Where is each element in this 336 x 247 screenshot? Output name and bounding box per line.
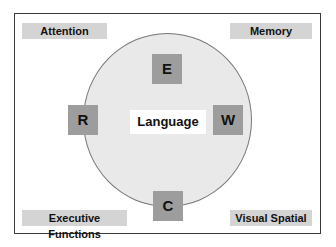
node-r: R	[68, 105, 98, 135]
corner-label-visual-spatial: Visual Spatial	[230, 210, 312, 226]
corner-label-attention: Attention	[22, 23, 107, 39]
center-label-language: Language	[130, 110, 206, 134]
node-c: C	[153, 191, 183, 221]
node-e: E	[152, 54, 182, 84]
corner-label-memory: Memory	[230, 23, 312, 39]
corner-label-executive-functions: Executive Functions	[22, 210, 127, 226]
node-w: W	[213, 105, 243, 135]
